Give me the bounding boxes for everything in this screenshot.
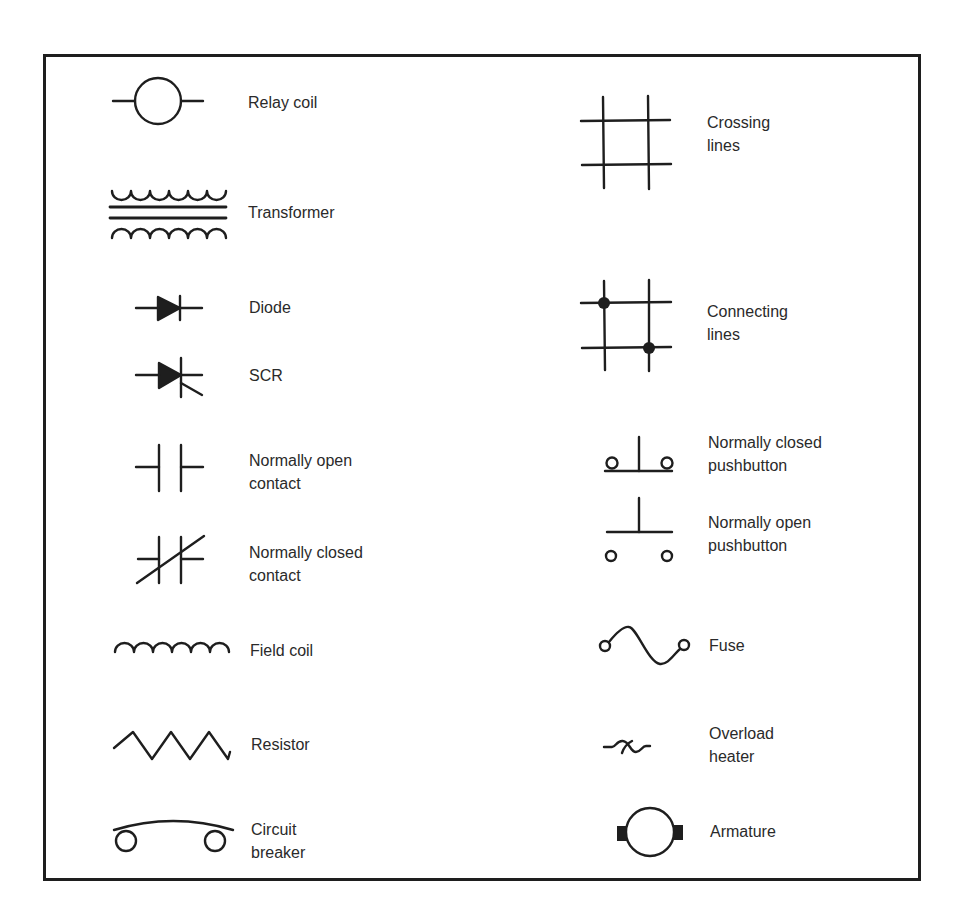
label-field-coil: Field coil bbox=[250, 639, 313, 662]
normally-closed-contact-icon bbox=[137, 536, 204, 583]
label-relay-coil: Relay coil bbox=[248, 91, 317, 114]
label-circuit-breaker: Circuit breaker bbox=[251, 818, 305, 864]
resistor-icon bbox=[114, 732, 230, 759]
label-normally-closed-contact: Normally closed contact bbox=[249, 541, 363, 587]
normally-open-pushbutton-icon bbox=[606, 498, 672, 561]
label-overload-heater: Overload heater bbox=[709, 722, 774, 768]
label-connecting-lines: Connecting lines bbox=[707, 300, 788, 346]
normally-open-contact-icon bbox=[136, 445, 203, 491]
label-transformer: Transformer bbox=[248, 201, 335, 224]
relay-coil-icon bbox=[113, 78, 203, 124]
crossing-lines-icon bbox=[581, 96, 671, 189]
label-normally-open-pushbutton: Normally open pushbutton bbox=[708, 511, 811, 557]
circuit-breaker-icon bbox=[114, 821, 233, 851]
label-crossing-lines: Crossing lines bbox=[707, 111, 770, 157]
diode-icon bbox=[136, 296, 202, 320]
label-diode: Diode bbox=[249, 296, 291, 319]
transformer-icon bbox=[110, 191, 226, 238]
armature-icon bbox=[617, 808, 683, 856]
connecting-lines-icon bbox=[581, 280, 671, 371]
symbols-canvas bbox=[0, 0, 970, 924]
label-resistor: Resistor bbox=[251, 733, 310, 756]
label-scr: SCR bbox=[249, 364, 283, 387]
overload-heater-icon bbox=[604, 741, 650, 753]
normally-closed-pushbutton-icon bbox=[605, 437, 673, 471]
fuse-icon bbox=[600, 627, 689, 664]
label-armature: Armature bbox=[710, 820, 776, 843]
label-normally-closed-pushbutton: Normally closed pushbutton bbox=[708, 431, 822, 477]
field-coil-icon bbox=[115, 643, 229, 652]
label-fuse: Fuse bbox=[709, 634, 745, 657]
scr-icon bbox=[136, 358, 202, 397]
label-normally-open-contact: Normally open contact bbox=[249, 449, 352, 495]
